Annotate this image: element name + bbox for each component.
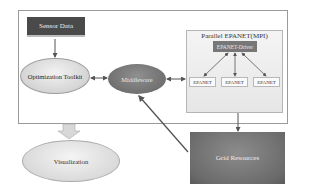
grid-resources-node: Grid Resources	[190, 132, 285, 184]
sensor-data-node: Sensor Data	[27, 17, 85, 37]
optimization-toolkit-node: Optimization Toolkit	[20, 58, 90, 94]
visualization-node: Visualization	[22, 140, 120, 182]
middleware-node: Middleware	[108, 64, 166, 94]
